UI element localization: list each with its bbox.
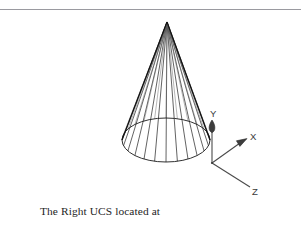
caption-line-1: The Right UCS located at xyxy=(40,205,230,219)
figure-caption: The Right UCS located at the new origin xyxy=(40,178,230,229)
x-axis-label: X xyxy=(250,131,257,142)
z-axis-label: Z xyxy=(252,186,258,197)
figure-canvas: Y X Z The Right UCS located at the new o… xyxy=(0,0,301,229)
ucs-origin-marker xyxy=(211,162,213,164)
y-axis-label: Y xyxy=(210,108,217,119)
